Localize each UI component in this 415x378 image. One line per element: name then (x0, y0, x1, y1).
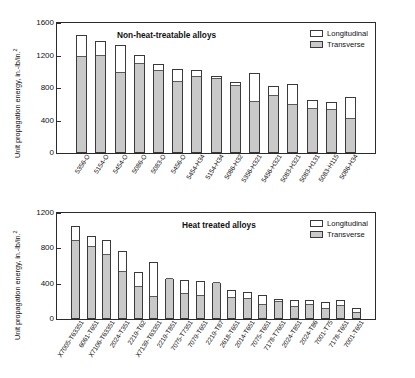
bar-transverse-segment (103, 254, 110, 318)
bar-transverse-segment (212, 78, 221, 152)
y-axis-title-top: Unit propagation energy, in.-lb/in.2 (12, 48, 22, 158)
chart-panel-non-heat-treatable: Unit propagation energy, in.-lb/in.2 Non… (0, 0, 415, 190)
bar[interactable] (274, 299, 283, 319)
legend-swatch-longitudinal-icon (310, 30, 323, 37)
legend-item-longitudinal: Longitudinal (310, 29, 368, 38)
y-tick-mark (57, 319, 61, 320)
bar[interactable] (196, 281, 205, 319)
chart-panel-heat-treated: Unit propagation energy, in.-lb/in.2 Hea… (0, 190, 415, 378)
bar[interactable] (290, 300, 299, 319)
bar[interactable] (172, 69, 183, 154)
bar-transverse-segment (77, 56, 86, 152)
bar[interactable] (321, 302, 330, 319)
bar[interactable] (211, 76, 222, 153)
y-tick-label: 0 (50, 149, 54, 157)
bar[interactable] (305, 300, 314, 319)
x-tick-label: 5083-O (150, 153, 168, 175)
bar[interactable] (118, 251, 127, 319)
bar[interactable] (134, 55, 145, 153)
bar-transverse-segment (337, 305, 344, 318)
bar[interactable] (76, 35, 87, 153)
legend-swatch-transverse-icon (310, 41, 323, 48)
bar-transverse-segment (213, 282, 220, 318)
bar[interactable] (165, 279, 174, 319)
x-tick-label: 5356-O (73, 153, 91, 175)
legend-top: Longitudinal Transverse (310, 29, 368, 51)
bar-transverse-segment (228, 297, 235, 318)
y-tick-label: 1200 (36, 209, 54, 217)
bar[interactable] (307, 100, 318, 153)
bar-transverse-segment (135, 63, 144, 152)
y-tick-mark (57, 213, 61, 214)
bar-transverse-segment (150, 296, 157, 318)
x-tick-label: 5086-H34 (338, 153, 359, 180)
y-tick-mark (57, 284, 61, 285)
chart-title-bottom: Heat treated alloys (182, 220, 256, 230)
plot-area-bottom: Heat treated alloys Longitudinal Transve… (56, 212, 376, 320)
x-tick-label: 5454-O (111, 153, 129, 175)
bar[interactable] (258, 295, 267, 319)
legend-label-transverse: Transverse (327, 230, 365, 239)
bar-transverse-segment (88, 246, 95, 318)
bar[interactable] (345, 97, 356, 153)
y-tick-mark (57, 248, 61, 249)
legend-label-transverse: Transverse (327, 40, 365, 49)
bar-transverse-segment (291, 306, 298, 318)
bar-transverse-segment (135, 286, 142, 318)
bar-transverse-segment (192, 76, 201, 152)
bar-transverse-segment (244, 298, 251, 318)
bar[interactable] (249, 73, 260, 153)
bar[interactable] (243, 292, 252, 319)
bar[interactable] (212, 283, 221, 319)
bar[interactable] (180, 280, 189, 319)
y-tick-mark (57, 23, 61, 24)
x-tick-label: 5154-O (92, 153, 110, 175)
bar[interactable] (326, 102, 337, 153)
y-axis-title-bottom: Unit propagation energy, in.-lb/in.2 (12, 230, 22, 340)
bar[interactable] (87, 236, 96, 319)
bar-transverse-segment (166, 278, 173, 318)
y-tick-mark (57, 88, 61, 89)
bar-transverse-segment (275, 301, 282, 318)
bar[interactable] (134, 272, 143, 319)
bar[interactable] (95, 41, 106, 153)
bar[interactable] (102, 240, 111, 320)
bar[interactable] (268, 86, 279, 153)
bar-transverse-segment (346, 118, 355, 152)
bar[interactable] (227, 290, 236, 319)
legend-item-transverse: Transverse (310, 40, 368, 49)
bar[interactable] (352, 308, 361, 319)
bar-transverse-segment (231, 85, 240, 152)
figure-root: Unit propagation energy, in.-lb/in.2 Non… (0, 0, 415, 378)
legend-swatch-transverse-icon (310, 231, 323, 238)
y-tick-label: 800 (41, 84, 54, 92)
legend-item-transverse: Transverse (310, 230, 368, 239)
bar[interactable] (153, 64, 164, 153)
bar[interactable] (336, 300, 345, 319)
y-tick-mark (57, 56, 61, 57)
bar-transverse-segment (197, 295, 204, 318)
legend-label-longitudinal: Longitudinal (327, 219, 368, 228)
bar-transverse-segment (269, 95, 278, 152)
plot-area-top: Non-heat-treatable alloys Longitudinal T… (56, 22, 376, 154)
bar-transverse-segment (116, 72, 125, 152)
legend-label-longitudinal: Longitudinal (327, 29, 368, 38)
bar[interactable] (115, 45, 126, 153)
bar-transverse-segment (288, 104, 297, 152)
y-tick-label: 1600 (36, 19, 54, 27)
x-tick-label: 5083-H115 (317, 153, 340, 183)
bar[interactable] (191, 70, 202, 153)
bar[interactable] (230, 82, 241, 154)
legend-bottom: Longitudinal Transverse (310, 219, 368, 241)
y-tick-label: 400 (41, 280, 54, 288)
bar[interactable] (287, 84, 298, 153)
bar-transverse-segment (353, 312, 360, 318)
y-tick-label: 0 (50, 315, 54, 323)
chart-title-top: Non-heat-treatable alloys (117, 30, 216, 40)
bar-transverse-segment (259, 304, 266, 318)
y-tick-label: 1200 (36, 52, 54, 60)
bar[interactable] (149, 262, 158, 319)
bar-transverse-segment (119, 271, 126, 318)
bar[interactable] (71, 226, 80, 319)
bar-transverse-segment (72, 240, 79, 318)
